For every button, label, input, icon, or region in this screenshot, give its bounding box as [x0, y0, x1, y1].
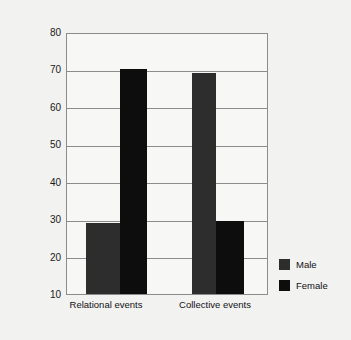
x-tick-label-collective-events: Collective events [178, 299, 252, 310]
bar-male-relational [86, 223, 120, 294]
y-tick-label-40: 40 [27, 177, 61, 188]
y-tick-label-60: 60 [27, 102, 61, 113]
bar-female-collective [216, 221, 244, 294]
legend: Male Female [279, 258, 328, 300]
bar-male-collective [192, 73, 216, 294]
gridline-70 [67, 71, 267, 72]
legend-item-female: Female [279, 279, 328, 291]
gridline-50 [67, 146, 267, 147]
legend-label-female: Female [296, 280, 328, 291]
legend-swatch-male-icon [279, 259, 290, 270]
y-tick-label-20: 20 [27, 252, 61, 263]
y-tick-label-50: 50 [27, 139, 61, 150]
y-tick-label-70: 70 [27, 64, 61, 75]
plot-area [66, 33, 268, 295]
bar-chart-figure: Proportion of participants reporting eve… [0, 0, 351, 340]
legend-label-male: Male [296, 259, 317, 270]
x-tick-label-relational-events: Relational events [69, 299, 143, 310]
gridline-40 [67, 183, 267, 184]
legend-item-male: Male [279, 258, 328, 270]
y-tick-label-10: 10 [27, 289, 61, 300]
y-tick-label-30: 30 [27, 214, 61, 225]
gridline-60 [67, 108, 267, 109]
bar-female-relational [120, 69, 147, 294]
y-tick-label-80: 80 [27, 27, 61, 38]
legend-swatch-female-icon [279, 280, 290, 291]
